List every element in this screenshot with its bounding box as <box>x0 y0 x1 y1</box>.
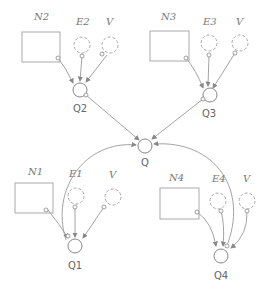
label-e1: E1 <box>68 168 83 179</box>
port-icon <box>73 205 77 209</box>
node-e2[interactable] <box>74 37 90 53</box>
node-q4[interactable] <box>214 249 228 263</box>
label-n1: N1 <box>27 166 43 177</box>
port-icon <box>195 210 199 214</box>
edge-e2-q2 <box>80 56 82 81</box>
label-v1: V <box>109 169 118 180</box>
label-q2: Q2 <box>73 103 87 114</box>
node-q[interactable] <box>138 139 152 153</box>
edge-v2-q2 <box>86 55 107 82</box>
label-n2: N2 <box>33 11 49 22</box>
node-v4[interactable] <box>239 193 255 209</box>
node-n3[interactable] <box>150 31 189 61</box>
label-e4: E4 <box>211 173 226 184</box>
node-v3[interactable] <box>232 35 248 51</box>
port-icon <box>66 234 70 238</box>
edge-n4-q4 <box>197 212 216 246</box>
port-icon <box>80 54 84 58</box>
port-icon <box>233 51 237 55</box>
edge-n3-q3 <box>186 58 203 88</box>
port-icon <box>219 209 223 213</box>
edge-n1-q1 <box>48 210 68 238</box>
edge-v3-q3 <box>213 53 235 88</box>
edge-q3-q <box>152 99 203 139</box>
port-icon <box>102 205 106 209</box>
edge-e4-q4 <box>221 211 224 246</box>
label-v2: V <box>106 16 115 27</box>
label-n3: N3 <box>160 11 176 22</box>
edge-v1-q1 <box>83 207 104 238</box>
node-q1[interactable] <box>68 239 82 253</box>
port-icon <box>225 244 229 248</box>
node-v2[interactable] <box>102 37 118 53</box>
node-e3[interactable] <box>201 35 217 51</box>
edge-q1-q <box>62 145 136 240</box>
port-icon <box>245 209 249 213</box>
label-e2: E2 <box>75 16 90 27</box>
label-v4: V <box>243 173 252 184</box>
label-q3: Q3 <box>202 108 216 119</box>
node-e4[interactable] <box>210 193 226 209</box>
label-q: Q <box>141 157 149 168</box>
port-icon <box>184 56 188 60</box>
label-q4: Q4 <box>214 270 228 281</box>
label-q1: Q1 <box>68 260 82 271</box>
diagram-canvas: N2 E2 V Q2 N3 E3 V Q3 Q N1 E1 V Q1 N4 <box>0 0 268 293</box>
port-icon <box>100 52 104 56</box>
port-icon <box>84 93 88 97</box>
node-e1[interactable] <box>68 188 84 204</box>
port-icon <box>56 56 60 60</box>
port-icon <box>207 53 211 57</box>
node-n2[interactable] <box>22 32 60 62</box>
edge-q2-q <box>86 95 139 140</box>
label-n4: N4 <box>168 172 184 183</box>
node-v1[interactable] <box>105 189 121 205</box>
node-n4[interactable] <box>160 188 199 219</box>
port-icon <box>201 97 205 101</box>
label-e3: E3 <box>202 16 217 27</box>
label-v3: V <box>236 16 245 27</box>
edge-e3-q3 <box>208 55 209 86</box>
port-icon <box>44 208 48 212</box>
